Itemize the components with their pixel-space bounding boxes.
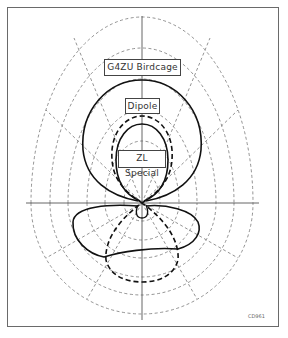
- figure-code: CD961: [248, 313, 265, 319]
- label-g4zu-birdcage: G4ZU Birdcage: [104, 59, 181, 76]
- label-dipole: Dipole: [125, 98, 160, 114]
- label-zl-special: ZL Special: [118, 150, 166, 168]
